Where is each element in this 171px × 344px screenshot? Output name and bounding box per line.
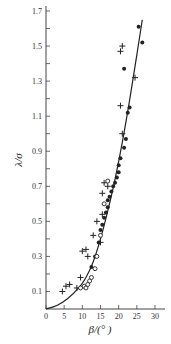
filled-circle-marker [97, 240, 101, 244]
open-circle-marker [106, 179, 110, 183]
filled-circle-marker [109, 190, 113, 194]
filled-circle-marker [115, 176, 119, 180]
filled-circle-marker [117, 163, 121, 167]
plus-marker [117, 103, 123, 109]
plus-marker [99, 190, 105, 196]
y-tick-label: 0.1 [32, 287, 42, 296]
open-circle-marker [99, 233, 103, 237]
filled-circle-marker [117, 170, 121, 174]
filled-circle-marker [124, 137, 128, 141]
tick-marks: 0.10.30.50.70.91.11.31.51.7051015202530 [32, 7, 159, 321]
filled-circle-marker [104, 211, 108, 215]
x-tick-label: 10 [78, 312, 86, 321]
open-circle-marker [102, 202, 106, 206]
y-axis-label: λ/σ [12, 153, 24, 168]
filled-circle-marker [102, 216, 106, 220]
plus-marker [117, 48, 123, 54]
filled-circle-marker [122, 67, 126, 71]
plus-marker [78, 274, 84, 280]
filled-circle-marker [137, 25, 141, 29]
plus-marker [119, 43, 125, 49]
y-tick-label: 0.5 [32, 217, 42, 226]
plus-marker [105, 183, 111, 189]
filled-circle-marker [118, 156, 122, 160]
filled-circle-marker [108, 195, 112, 199]
y-tick-label: 0.3 [32, 252, 42, 261]
fit-curve [46, 20, 142, 309]
axes [46, 6, 165, 309]
filled-circle-marker [113, 181, 117, 185]
filled-circle-marker [106, 198, 110, 202]
filled-circle-marker [106, 205, 110, 209]
x-tick-label: 20 [115, 312, 123, 321]
y-tick-label: 1.3 [32, 77, 42, 86]
filled-circle-marker [100, 223, 104, 227]
y-tick-label: 0.7 [32, 182, 42, 191]
open-circle-marker [89, 275, 93, 279]
plus-marker [94, 218, 100, 224]
open-circle-marker [95, 254, 99, 258]
y-tick-label: 1.5 [32, 42, 42, 51]
y-tick-label: 1.1 [32, 112, 42, 121]
x-axis-label: β/(° ) [87, 323, 111, 336]
filled-circle-marker [111, 184, 115, 188]
filled-circle-marker [140, 41, 144, 45]
x-tick-label: 25 [133, 312, 141, 321]
filled-circle-marker [122, 146, 126, 150]
x-tick-label: 0 [44, 312, 48, 321]
data-points [59, 25, 144, 295]
plus-marker [59, 288, 65, 294]
open-circle-marker [93, 267, 97, 271]
y-tick-label: 0.9 [32, 147, 42, 156]
x-tick-label: 5 [62, 312, 66, 321]
filled-circle-marker [99, 228, 103, 232]
x-tick-label: 15 [97, 312, 105, 321]
scatter-chart: 0.10.30.50.70.91.11.31.51.7051015202530 … [0, 0, 171, 344]
fit-curve-line [46, 20, 142, 309]
y-tick-label: 1.7 [32, 7, 42, 16]
plus-marker [90, 232, 96, 238]
x-tick-label: 30 [151, 312, 159, 321]
y-axis-label: λ/σ [12, 153, 24, 168]
filled-circle-marker [126, 111, 130, 115]
filled-circle-marker [128, 105, 132, 109]
plus-marker [85, 253, 91, 259]
